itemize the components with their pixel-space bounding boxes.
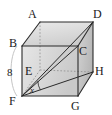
- measurement-label-8: 8: [7, 67, 13, 78]
- vertex-label-G: G: [71, 100, 80, 112]
- geometry-figure: A B C D E F G H 8 x: [0, 0, 112, 115]
- vertex-label-B: B: [9, 37, 17, 49]
- vertex-label-E: E: [25, 65, 32, 77]
- vertex-label-F: F: [9, 95, 16, 107]
- angle-label-x: x: [30, 86, 34, 95]
- vertex-label-A: A: [28, 8, 37, 20]
- vertex-label-C: C: [79, 45, 87, 57]
- vertex-label-D: D: [93, 8, 102, 20]
- vertex-label-H: H: [95, 65, 104, 77]
